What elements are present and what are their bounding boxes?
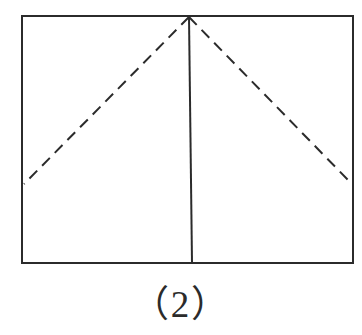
rectangle-outline — [22, 16, 353, 263]
vertical-center-crease — [189, 17, 192, 263]
figure-container: （2） — [0, 0, 362, 335]
left-diagonal-fold — [24, 17, 189, 184]
right-diagonal-fold — [189, 17, 352, 184]
figure-caption: （2） — [0, 283, 362, 327]
